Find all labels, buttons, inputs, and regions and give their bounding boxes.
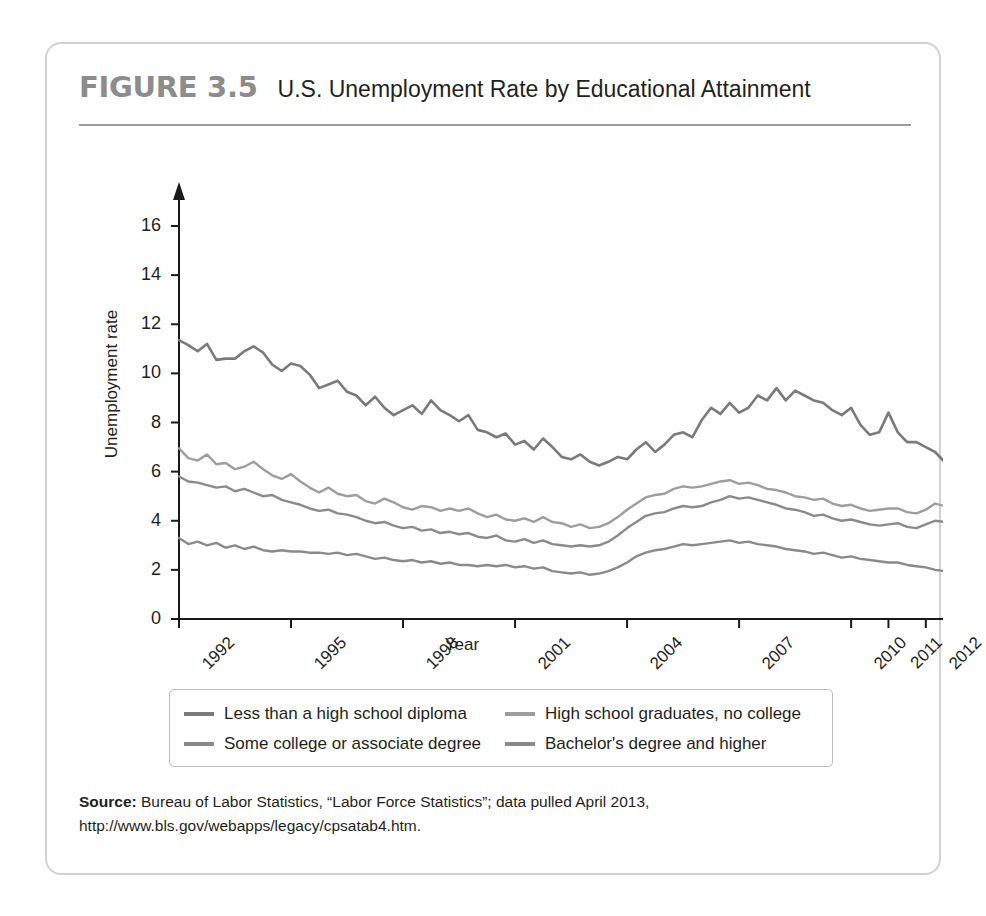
x-tick-label: 2012: [945, 633, 986, 674]
chart-svg: [47, 44, 943, 694]
legend-item-2[interactable]: Some college or associate degree: [184, 734, 505, 754]
chart-legend: Less than a high school diploma High sch…: [169, 689, 833, 767]
legend-label: Some college or associate degree: [224, 734, 481, 754]
legend-swatch-icon: [184, 712, 214, 716]
legend-label: Less than a high school diploma: [224, 704, 467, 724]
legend-swatch-icon: [184, 742, 214, 746]
source-label: Source:: [79, 793, 137, 810]
legend-label: Bachelor's degree and higher: [545, 734, 767, 754]
chart-plot-region: Unemployment rate Year 0246810121416 199…: [47, 44, 943, 694]
source-note: Source: Bureau of Labor Statistics, “Lab…: [79, 790, 909, 838]
legend-row: Less than a high school diploma High sch…: [184, 699, 818, 729]
legend-label: High school graduates, no college: [545, 704, 801, 724]
figure-page: FIGURE 3.5 U.S. Unemployment Rate by Edu…: [0, 0, 986, 916]
figure-card: FIGURE 3.5 U.S. Unemployment Rate by Edu…: [45, 42, 941, 875]
legend-item-3[interactable]: Bachelor's degree and higher: [505, 734, 818, 754]
legend-swatch-icon: [505, 742, 535, 746]
legend-item-0[interactable]: Less than a high school diploma: [184, 704, 505, 724]
legend-swatch-icon: [505, 712, 535, 716]
source-text: Bureau of Labor Statistics, “Labor Force…: [79, 793, 649, 834]
legend-item-1[interactable]: High school graduates, no college: [505, 704, 818, 724]
legend-row: Some college or associate degree Bachelo…: [184, 729, 818, 759]
